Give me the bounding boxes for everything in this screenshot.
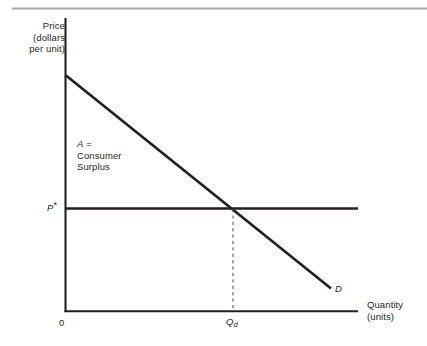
x-axis-title-line1: Quantity — [367, 299, 403, 310]
quantity-label-q: Q — [226, 316, 234, 327]
demand-curve-label: D — [335, 283, 342, 295]
area-label-line3: Surplus — [77, 161, 110, 172]
demand-curve-line — [66, 76, 331, 289]
y-axis-title-line3: per unit) — [29, 43, 65, 54]
quantity-label-subscript: d — [234, 320, 238, 329]
consumer-surplus-annotation: A =ConsumerSurplus — [77, 138, 122, 173]
demand-curve-figure: Price(dollarsper unit) Quantity(units) A… — [0, 0, 427, 346]
quantity-demanded-label: Qd — [226, 316, 238, 331]
equilibrium-price-label: P* — [47, 200, 57, 213]
x-axis-title-line2: (units) — [367, 311, 394, 322]
price-label-star: * — [53, 200, 57, 210]
y-axis-title: Price(dollarsper unit) — [29, 20, 65, 55]
x-axis-title: Quantity(units) — [367, 299, 403, 322]
y-axis-title-line1: Price — [43, 20, 65, 31]
area-equals-sign: = — [83, 138, 91, 149]
y-axis-title-line2: (dollars — [33, 32, 65, 43]
origin-label: 0 — [59, 317, 64, 329]
area-label-line2: Consumer — [77, 150, 122, 161]
